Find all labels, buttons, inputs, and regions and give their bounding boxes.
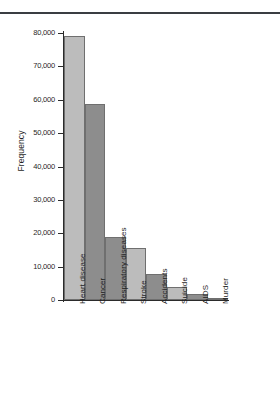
x-axis-category-label: Murder bbox=[221, 278, 230, 304]
x-axis-category-label: Stroke bbox=[139, 280, 148, 304]
y-axis-tick-label: 60,000 bbox=[3, 96, 55, 104]
y-axis-tick-label: 50,000 bbox=[3, 129, 55, 137]
y-axis-tick-label: 10,000 bbox=[3, 263, 55, 271]
x-axis-category-label: Suicide bbox=[180, 277, 189, 304]
y-axis-tick-label: 80,000 bbox=[3, 29, 55, 37]
x-axis-category-label: Respiratory diseases bbox=[119, 227, 128, 304]
x-axis-category-label: AIDS bbox=[201, 285, 210, 304]
top-divider-rule bbox=[0, 12, 280, 14]
y-axis-tick-label: 20,000 bbox=[3, 229, 55, 237]
bar-chart-figure: Frequency 010,00020,00030,00040,00050,00… bbox=[0, 0, 280, 412]
y-axis-tick-label: 40,000 bbox=[3, 163, 55, 171]
y-axis-tick-label: 70,000 bbox=[3, 62, 55, 70]
y-axis-tick-label: 0 bbox=[3, 296, 55, 304]
plot-area bbox=[64, 33, 228, 300]
bar bbox=[85, 104, 106, 300]
x-axis-category-label: Cancer bbox=[98, 278, 107, 304]
x-axis-category-label: Accidents bbox=[160, 268, 169, 304]
y-axis-tick-label: 30,000 bbox=[3, 196, 55, 204]
x-axis-category-label: Heart disease bbox=[78, 253, 87, 304]
